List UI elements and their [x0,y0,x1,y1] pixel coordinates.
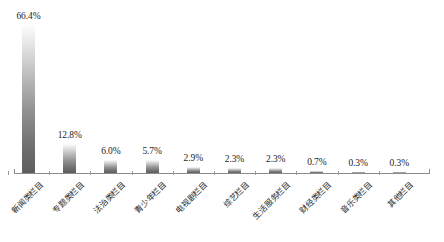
bar-value-label: 12.8% [48,130,92,140]
bar [22,25,35,173]
x-axis-right-cap [429,169,430,174]
bar [187,167,200,173]
bar-value-label: 2.9% [171,153,215,163]
category-label: 财经类栏目 [296,178,333,215]
x-axis-tick [338,171,339,175]
bar-value-label: 0.7% [295,157,339,167]
category-label: 其他栏目 [384,178,416,210]
bar [146,160,159,173]
category-label: 法治类栏目 [90,178,127,215]
x-axis-line [14,173,430,174]
bar [63,144,76,173]
x-axis-tick [49,171,50,175]
category-label: 专题类栏目 [49,178,86,215]
category-label: 青少年栏目 [131,178,168,215]
x-axis-tick [214,171,215,175]
bar [352,172,365,173]
bar-value-label: 2.3% [254,154,298,164]
x-axis-tick [255,171,256,175]
bar-value-label: 66.4% [7,11,51,21]
bar-value-label: 0.3% [336,158,380,168]
bar [393,172,406,173]
x-axis-tick [173,171,174,175]
bar-value-label: 6.0% [89,146,133,156]
category-label: 综艺栏目 [219,178,251,210]
category-label: 生活服务栏目 [249,178,292,221]
x-axis-tick [379,171,380,175]
category-label: 新闻类栏目 [8,178,45,215]
x-axis-left-cap [14,169,15,174]
bar-chart: 66.4%12.8%6.0%5.7%2.9%2.3%2.3%0.7%0.3%0.… [0,0,444,242]
category-label: 电视剧栏目 [172,178,209,215]
category-label: 音乐类栏目 [337,178,374,215]
bar [228,168,241,173]
bar-value-label: 2.3% [213,154,257,164]
x-axis-tick [296,171,297,175]
bar-value-label: 5.7% [130,146,174,156]
plot-area: 66.4%12.8%6.0%5.7%2.9%2.3%2.3%0.7%0.3%0.… [0,0,444,242]
x-axis-tick [90,171,91,175]
bar [269,168,282,173]
bar [310,171,323,173]
x-axis-tick [132,171,133,175]
x-axis-tick [8,171,9,175]
bar-value-label: 0.3% [377,158,421,168]
bar [104,160,117,173]
